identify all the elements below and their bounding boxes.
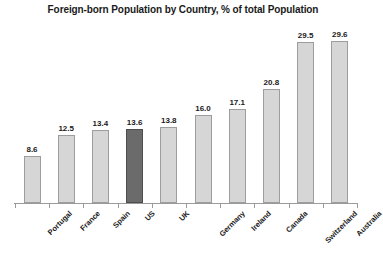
bar-spain: [92, 130, 109, 203]
category-label-canada: Canada: [284, 209, 310, 235]
bar-value-portugal: 8.6: [12, 145, 52, 154]
bar-value-ireland: 17.1: [217, 98, 257, 107]
category-label-us: US: [143, 209, 157, 223]
bar-australia: [331, 41, 348, 203]
tick-mark: [118, 204, 119, 208]
category-label-australia: Australia: [354, 209, 383, 238]
bar-value-australia: 29.6: [320, 30, 360, 39]
bar-ireland: [229, 109, 246, 203]
tick-mark: [83, 204, 84, 208]
bar-germany: [195, 115, 212, 203]
category-label-france: France: [78, 209, 102, 233]
tick-mark: [289, 204, 290, 208]
bar-switzerland: [297, 42, 314, 203]
bar-canada: [263, 89, 280, 203]
bar-value-uk: 13.8: [149, 116, 189, 125]
tick-mark: [323, 204, 324, 208]
bar-value-canada: 20.8: [251, 78, 291, 87]
category-label-uk: UK: [177, 209, 191, 223]
tick-mark: [357, 204, 358, 208]
tick-mark: [254, 204, 255, 208]
category-label-portugal: Portugal: [46, 209, 74, 237]
category-label-ireland: Ireland: [249, 209, 273, 233]
category-label-spain: Spain: [111, 209, 132, 230]
category-label-switzerland: Switzerland: [323, 209, 359, 245]
bar-us: [126, 129, 143, 203]
tick-mark: [15, 204, 16, 208]
bar-portugal: [24, 156, 41, 203]
tick-mark: [49, 204, 50, 208]
tick-mark: [220, 204, 221, 208]
bar-france: [58, 135, 75, 203]
tick-mark: [186, 204, 187, 208]
bar-uk: [160, 127, 177, 203]
x-axis-line: [14, 203, 358, 204]
category-label-germany: Germany: [218, 209, 247, 238]
tick-mark: [152, 204, 153, 208]
